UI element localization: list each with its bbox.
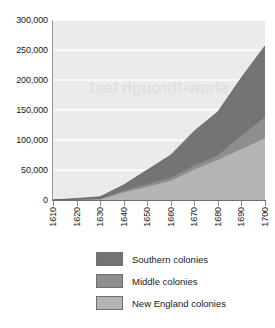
y-tick-label: 250,000 [0, 46, 48, 55]
x-tick-label: 1630 [96, 207, 105, 227]
legend-item-label: Middle colonies [132, 276, 197, 287]
x-tick-mark [265, 201, 266, 206]
x-tick-label: 1620 [72, 207, 81, 227]
x-tick-label: 1650 [143, 207, 152, 227]
legend-color-swatch [96, 274, 123, 288]
x-tick-label: 1660 [166, 207, 175, 227]
chart-legend: Southern coloniesMiddle coloniesNew Engl… [96, 248, 271, 314]
y-tick-label: 100,000 [0, 136, 48, 145]
stacked-area-chart: 050,000100,000150,000200,000250,000300,0… [0, 0, 275, 328]
x-tick-label: 1670 [190, 207, 199, 227]
y-axis: 050,000100,000150,000200,000250,000300,0… [0, 20, 48, 200]
area-series-svg [53, 20, 265, 200]
x-tick-mark [77, 201, 78, 206]
x-tick-mark [171, 201, 172, 206]
legend-item-label: Southern colonies [132, 254, 208, 265]
x-tick-mark [241, 201, 242, 206]
x-tick-mark [100, 201, 101, 206]
x-axis-tick-labels: 1610162016301640165016601670168016901700 [53, 207, 265, 241]
legend-color-swatch [96, 252, 123, 266]
legend-color-swatch [96, 296, 123, 310]
x-tick-label: 1680 [213, 207, 222, 227]
x-tick-label: 1610 [49, 207, 58, 227]
x-tick-mark [124, 201, 125, 206]
y-tick-label: 50,000 [0, 166, 48, 175]
y-tick-label: 150,000 [0, 106, 48, 115]
y-tick-label: 0 [0, 196, 48, 205]
x-tick-mark [218, 201, 219, 206]
y-tick-label: 200,000 [0, 76, 48, 85]
x-tick-label: 1690 [237, 207, 246, 227]
legend-item[interactable]: Middle colonies [96, 270, 271, 292]
x-tick-mark [147, 201, 148, 206]
x-tick-label: 1640 [119, 207, 128, 227]
y-tick-label: 300,000 [0, 16, 48, 25]
x-tick-mark [194, 201, 195, 206]
legend-item[interactable]: Southern colonies [96, 248, 271, 270]
plot-area: show-through text [53, 20, 265, 200]
x-tick-mark [53, 201, 54, 206]
legend-item[interactable]: New England colonies [96, 292, 271, 314]
x-tick-label: 1700 [261, 207, 270, 227]
legend-item-label: New England colonies [132, 298, 226, 309]
